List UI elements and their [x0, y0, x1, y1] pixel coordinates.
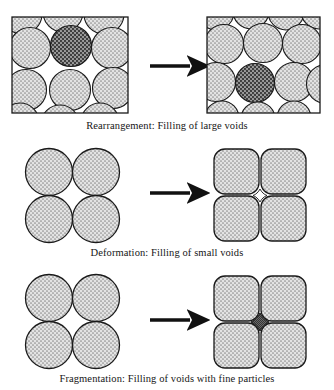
- figure-canvas: [0, 0, 334, 390]
- caption-deformation: Deformation: Filling of small voids: [0, 247, 334, 258]
- row-rearrangement-after: [197, 0, 334, 136]
- particle-packing-figure: Rearrangement: Filling of large voids De…: [0, 0, 334, 390]
- caption-rearrangement: Rearrangement: Filling of large voids: [0, 120, 334, 131]
- row-fragmentation-before: [26, 275, 120, 369]
- caption-fragmentation: Fragmentation: Filling of voids with fin…: [0, 373, 334, 384]
- row-fragmentation-after: [214, 276, 306, 368]
- row-deformation-before: [26, 149, 120, 243]
- row-deformation-after: [214, 149, 306, 241]
